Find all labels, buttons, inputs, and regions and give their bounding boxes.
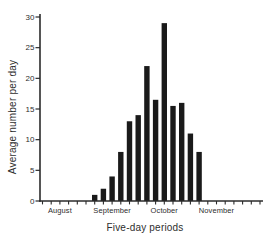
month-label-november: November [199,206,235,215]
y-tick-label-30: 30 [26,13,35,22]
bar-11 [179,103,184,201]
y-tick-label-15: 15 [26,105,35,114]
x-axis-title: Five-day periods [106,222,183,233]
axes-group [39,14,263,202]
bars-group [92,23,202,201]
month-label-august: August [48,206,73,215]
bar-10 [170,106,175,201]
y-axis-title: Average number per day [7,60,18,174]
month-label-october: October [151,206,179,215]
y-tick-label-0: 0 [30,197,35,206]
bar-9 [162,23,167,201]
bar-chart: 051015202530AugustSeptemberOctoberNovemb… [0,0,270,241]
bar-1 [92,195,97,201]
y-tick-label-25: 25 [26,43,35,52]
bar-chart-figure: 051015202530AugustSeptemberOctoberNovemb… [0,0,270,241]
bar-13 [196,152,201,201]
bar-12 [188,134,193,201]
bar-6 [136,115,141,201]
y-tick-label-10: 10 [26,135,35,144]
y-tick-label-5: 5 [30,166,35,175]
y-tick-label-20: 20 [26,74,35,83]
month-label-september: September [93,206,131,215]
bar-8 [153,100,158,201]
bar-3 [109,176,114,201]
bar-5 [127,121,132,201]
bar-4 [118,152,123,201]
bar-2 [101,189,106,201]
bar-7 [144,66,149,201]
